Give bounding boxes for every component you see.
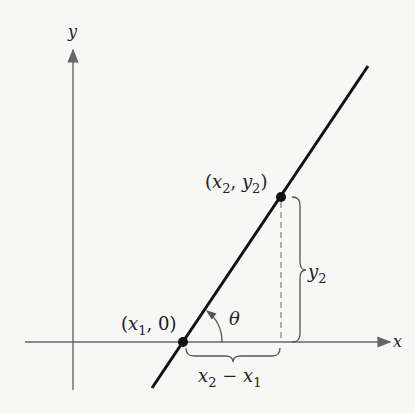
- x2-minus-x1-label: x2 − x1: [198, 365, 261, 390]
- vertical-brace: [292, 197, 306, 342]
- x-axis-label: x: [393, 332, 402, 351]
- point2-label: (x2, y2): [205, 171, 267, 196]
- y-axis-label: y: [67, 22, 78, 41]
- point1-label: (x1, 0): [121, 313, 176, 338]
- point-x1-0: [178, 337, 188, 347]
- y2-label: y2: [307, 261, 326, 286]
- horizontal-brace: [186, 348, 280, 362]
- angle-theta-label: θ: [229, 308, 240, 329]
- slope-angle-diagram: x y θ y2 x2 − x1 (x1, 0) (x2, y2): [0, 0, 415, 413]
- angle-arc: [207, 311, 222, 342]
- point-x2-y2: [276, 192, 286, 202]
